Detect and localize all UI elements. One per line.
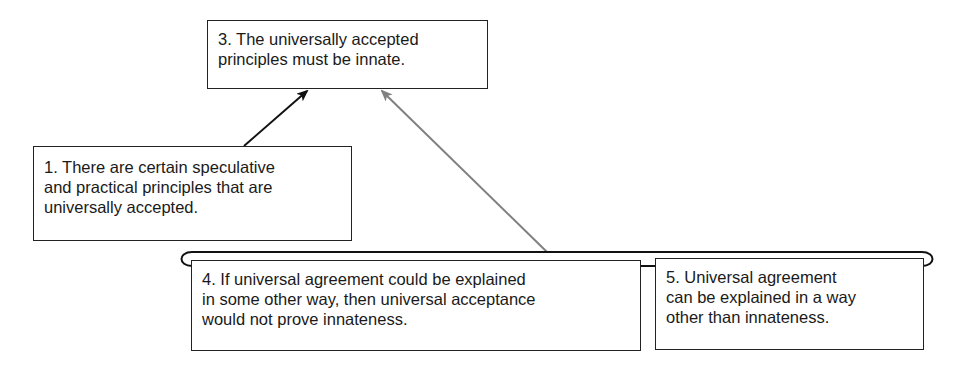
premise-1-box: 1. There are certain speculative and pra…: [33, 146, 352, 241]
premise-1-line-1: 1. There are certain speculative: [44, 157, 341, 177]
premise-5-line-3: other than innateness.: [666, 307, 913, 327]
premise-5-line-1: 5. Universal agreement: [666, 267, 913, 287]
premise-1-line-2: and practical principles that are: [44, 177, 341, 197]
claim-3-line-1: 3. The universally accepted: [218, 29, 477, 49]
premise-5-line-2: can be explained in a way: [666, 287, 913, 307]
claim-3-box: 3. The universally accepted principles m…: [207, 20, 488, 89]
premise-4-line-2: in some other way, then universal accept…: [202, 289, 630, 309]
claim-3-line-2: principles must be innate.: [218, 49, 477, 69]
premise-4-box: 4. If universal agreement could be expla…: [191, 260, 641, 351]
support-arrow-1-to-3: [244, 91, 307, 146]
premise-4-line-1: 4. If universal agreement could be expla…: [202, 269, 630, 289]
premise-5-box: 5. Universal agreement can be explained …: [655, 258, 924, 350]
objection-arrow-4-5-to-3: [382, 91, 547, 252]
premise-1-line-3: universally accepted.: [44, 197, 341, 217]
premise-4-line-3: would not prove innateness.: [202, 309, 630, 329]
